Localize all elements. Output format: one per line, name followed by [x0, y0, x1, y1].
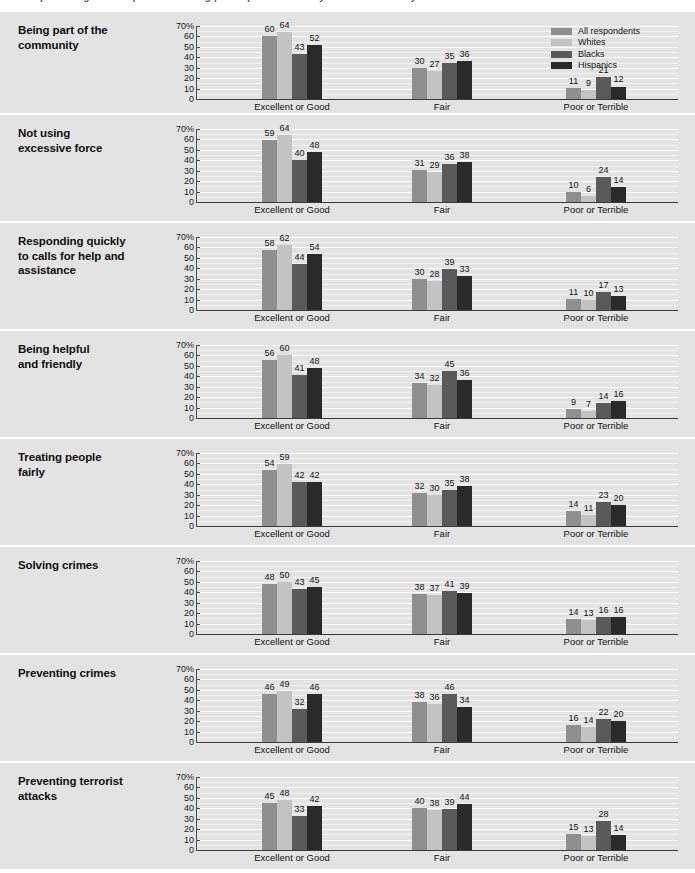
x-axis-category-label: Fair — [382, 636, 502, 647]
legend-item[interactable]: Whites — [551, 38, 681, 49]
bar-value-label: 33 — [453, 265, 476, 274]
y-axis-tick-label: 60 — [150, 135, 194, 144]
bar-value-label: 24 — [592, 166, 615, 175]
y-axis-tick-mark — [196, 742, 200, 743]
bar — [307, 806, 322, 850]
y-axis-tick-mark — [196, 690, 200, 691]
bar — [611, 401, 626, 418]
y-axis-tick-mark — [196, 310, 200, 311]
bar-value-label: 48 — [273, 789, 296, 798]
bar — [457, 707, 472, 742]
bar-value-label: 42 — [303, 471, 326, 480]
legend-label: Hispanics — [578, 61, 617, 70]
y-axis-tick-mark — [196, 850, 200, 851]
bar — [412, 383, 427, 418]
y-axis-tick-mark — [196, 516, 200, 517]
bar — [292, 375, 307, 418]
y-axis-tick-label: 40 — [150, 480, 194, 489]
bar-value-label: 59 — [273, 453, 296, 462]
bar — [566, 725, 581, 742]
y-axis-tick-label: 20 — [150, 825, 194, 834]
y-axis-tick-label: 0 — [150, 95, 194, 104]
y-axis-tick-label: 40 — [150, 588, 194, 597]
y-axis-tick-mark — [196, 613, 200, 614]
gridline — [196, 453, 678, 454]
y-axis-tick-label: 60 — [150, 243, 194, 252]
y-axis-tick-mark — [196, 129, 200, 130]
legend-swatch-icon — [551, 39, 572, 46]
plot-area: 464932463836463416142220 — [196, 669, 678, 742]
bar — [457, 380, 472, 418]
bar — [596, 617, 611, 634]
y-axis-tick-mark — [196, 57, 200, 58]
y-axis-tick-label: 20 — [150, 177, 194, 186]
y-axis-tick-label: 20 — [150, 717, 194, 726]
y-axis-tick-mark — [196, 408, 200, 409]
x-axis-category-label: Fair — [382, 204, 502, 215]
bar — [442, 591, 457, 634]
y-axis-tick-mark — [196, 474, 200, 475]
y-axis-tick-mark — [196, 592, 200, 593]
y-axis-tick-label: 50 — [150, 578, 194, 587]
bar-value-label: 64 — [273, 21, 296, 30]
bar — [427, 704, 442, 742]
x-axis-category-label: Excellent or Good — [232, 852, 352, 863]
x-axis-category-label: Excellent or Good — [232, 528, 352, 539]
bar — [442, 809, 457, 850]
bar — [457, 593, 472, 634]
y-axis-tick-mark — [196, 345, 200, 346]
y-axis-tick-mark — [196, 300, 200, 301]
bar — [611, 617, 626, 634]
x-axis-category-label: Fair — [382, 852, 502, 863]
y-axis-tick-mark — [196, 268, 200, 269]
bar — [611, 87, 626, 100]
y-axis-tick-mark — [196, 819, 200, 820]
bar-value-label: 20 — [607, 710, 630, 719]
bar — [307, 368, 322, 418]
bar-value-label: 52 — [303, 34, 326, 43]
x-axis-line — [196, 202, 678, 203]
bar — [307, 482, 322, 526]
legend-item[interactable]: Blacks — [551, 49, 681, 60]
x-axis-category-label: Poor or Terrible — [536, 528, 656, 539]
y-axis-tick-label: 40 — [150, 53, 194, 62]
bar — [457, 804, 472, 850]
bar — [292, 589, 307, 634]
y-axis-tick-label: 70% — [150, 341, 194, 350]
y-axis-tick-label: 70% — [150, 665, 194, 674]
legend-item[interactable]: Hispanics — [551, 61, 681, 72]
bar — [427, 810, 442, 850]
bar — [611, 835, 626, 850]
y-axis-tick-mark — [196, 279, 200, 280]
bar-value-label: 44 — [453, 793, 476, 802]
y-axis-tick-mark — [196, 829, 200, 830]
x-axis-category-label: Excellent or Good — [232, 636, 352, 647]
legend-item[interactable]: All respondents — [551, 26, 681, 37]
bar — [581, 836, 596, 850]
bar-value-label: 16 — [607, 606, 630, 615]
y-axis-tick-mark — [196, 192, 200, 193]
bar — [581, 620, 596, 634]
bar — [262, 470, 277, 526]
x-axis-category-label: Excellent or Good — [232, 420, 352, 431]
y-axis-tick-label: 40 — [150, 372, 194, 381]
y-axis-tick-mark — [196, 366, 200, 367]
y-axis-tick-mark — [196, 181, 200, 182]
y-axis-tick-mark — [196, 732, 200, 733]
bar — [611, 721, 626, 742]
y-axis-tick-label: 10 — [150, 188, 194, 197]
y-axis-tick-mark — [196, 787, 200, 788]
y-axis-tick-label: 60 — [150, 351, 194, 360]
bar — [292, 264, 307, 310]
y-axis-tick-label: 60 — [150, 567, 194, 576]
gridline — [196, 777, 678, 778]
y-axis-tick-label: 10 — [150, 836, 194, 845]
y-axis-tick-mark — [196, 418, 200, 419]
y-axis-tick-label: 30 — [150, 815, 194, 824]
bar — [262, 140, 277, 202]
y-axis-tick-label: 30 — [150, 383, 194, 392]
x-axis-category-label: Poor or Terrible — [536, 636, 656, 647]
y-axis-tick-label: 40 — [150, 156, 194, 165]
y-axis-tick-label: 30 — [150, 707, 194, 716]
y-axis-tick-label: 50 — [150, 470, 194, 479]
